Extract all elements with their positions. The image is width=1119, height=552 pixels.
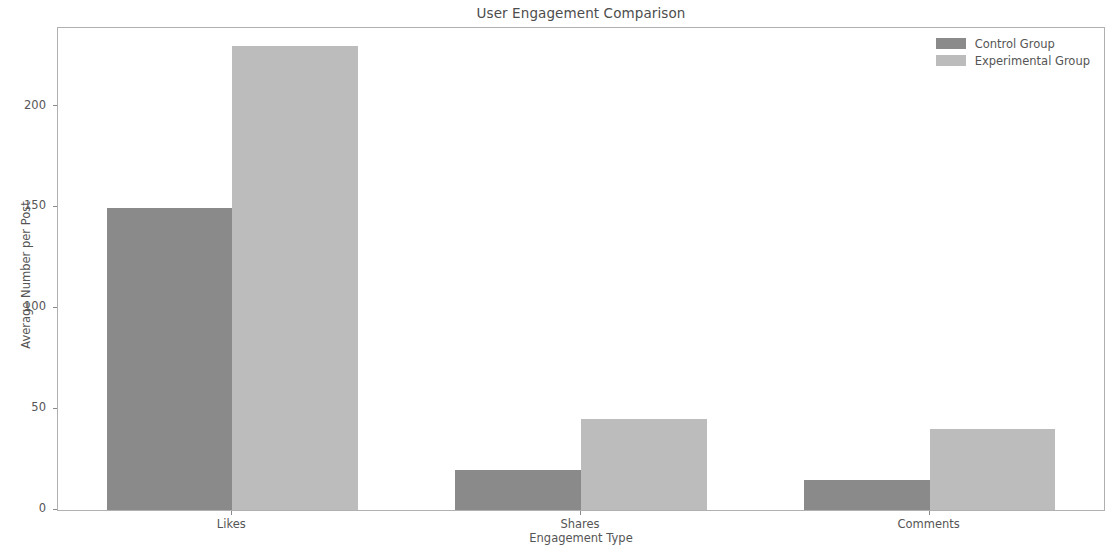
x-axis-tick: Comments	[869, 511, 989, 535]
plot-inner	[58, 28, 1104, 510]
x-axis-tick-label: Shares	[560, 517, 599, 531]
x-axis-tick: Likes	[171, 511, 291, 535]
legend-label: Experimental Group	[975, 54, 1090, 68]
x-axis-tick-mark	[231, 511, 232, 515]
y-axis-tick-mark	[53, 206, 57, 207]
bar-likes-experimental-group	[232, 46, 358, 510]
x-axis-tick-label: Likes	[217, 517, 246, 531]
legend-item: Control Group	[936, 35, 1090, 52]
legend-swatch-icon	[936, 55, 966, 66]
chart-title: User Engagement Comparison	[57, 5, 1105, 21]
chart-legend: Control GroupExperimental Group	[932, 33, 1094, 71]
x-axis-tick-label: Comments	[897, 517, 959, 531]
legend-label: Control Group	[975, 37, 1055, 51]
y-axis-tick-label: 200	[24, 98, 46, 112]
y-axis-tick-mark	[53, 105, 57, 106]
x-axis-tick: Shares	[520, 511, 640, 535]
bar-likes-control-group	[107, 208, 233, 511]
bar-comments-control-group	[804, 480, 930, 510]
bar-shares-experimental-group	[581, 419, 707, 510]
plot-area: Control GroupExperimental Group	[57, 27, 1105, 511]
x-axis-tick-mark	[580, 511, 581, 515]
legend-item: Experimental Group	[936, 52, 1090, 69]
y-axis-tick-label: 0	[39, 501, 46, 515]
x-axis-tick-mark	[929, 511, 930, 515]
y-axis-tick-label: 150	[24, 198, 46, 212]
y-axis-label-container: Average Number per Post	[8, 27, 22, 511]
bar-comments-experimental-group	[930, 429, 1056, 510]
y-axis-tick-label: 50	[31, 400, 46, 414]
chart-figure: User Engagement Comparison Average Numbe…	[0, 0, 1119, 552]
y-axis-tick-mark	[53, 307, 57, 308]
y-axis-tick-mark	[53, 408, 57, 409]
y-axis-label: Average Number per Post	[19, 125, 33, 425]
y-axis-tick-label: 100	[24, 299, 46, 313]
y-axis-tick-mark	[53, 509, 57, 510]
bar-shares-control-group	[455, 470, 581, 510]
legend-swatch-icon	[936, 38, 966, 49]
